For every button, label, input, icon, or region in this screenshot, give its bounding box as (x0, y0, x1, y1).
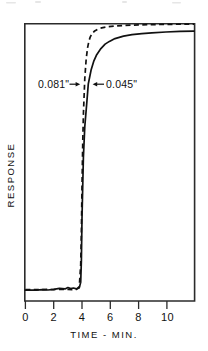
series-dashed-0081 (25, 24, 194, 289)
annotation-right-label: 0.045" (106, 78, 137, 90)
response-vs-time-chart: 0 2 4 6 8 10 TIME - MIN. RESPONSE 0.081"… (0, 0, 208, 351)
x-axis-title: TIME - MIN. (70, 329, 138, 340)
annotation-left-label: 0.081" (38, 78, 69, 90)
plot-frame (25, 24, 195, 301)
scan-artifact-group (6, 1, 181, 4)
annotation-right: 0.045" (93, 78, 138, 90)
annotation-right-arrowhead (93, 82, 98, 86)
x-tick-label-10: 10 (161, 311, 174, 323)
x-axis-ticks (25, 301, 167, 309)
x-tick-labels: 0 2 4 6 8 10 (22, 311, 174, 323)
x-tick-label-2: 2 (50, 311, 57, 323)
figure-root: 0 2 4 6 8 10 TIME - MIN. RESPONSE 0.081"… (0, 0, 208, 351)
x-tick-label-6: 6 (107, 311, 114, 323)
annotation-left: 0.081" (38, 78, 80, 90)
y-axis-title: RESPONSE (5, 143, 16, 208)
x-tick-label-4: 4 (79, 311, 86, 323)
x-tick-label-8: 8 (135, 311, 142, 323)
series-solid-0045 (25, 31, 194, 290)
x-tick-label-0: 0 (22, 311, 29, 323)
annotation-left-arrowhead (76, 82, 81, 86)
